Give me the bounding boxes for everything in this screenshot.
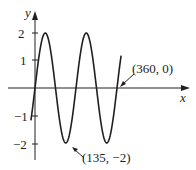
tick-label-m2: −2: [13, 137, 27, 152]
tick-label-m1: −1: [14, 109, 28, 124]
annotation-360: (360, 0): [132, 61, 173, 76]
tick-label-1: 1: [20, 53, 27, 68]
x-axis-label: x: [179, 90, 186, 105]
annotation-135: (135, −2): [82, 150, 131, 165]
y-axis-arrow-icon: [32, 11, 38, 20]
sine-graph: 2 1 −1 −2 y x (360, 0) (135, −2): [0, 0, 196, 170]
tick-label-2: 2: [18, 26, 25, 41]
y-axis-label: y: [23, 5, 31, 20]
